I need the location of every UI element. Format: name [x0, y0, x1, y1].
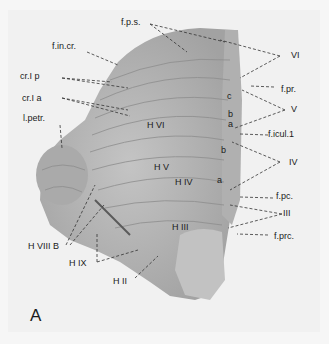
label-a-lower: a	[217, 176, 222, 185]
label-f-prc: f.prc.	[274, 232, 294, 241]
label-H-II: H II	[113, 277, 127, 286]
panel-letter: A	[30, 307, 41, 324]
label-f-pr: f.pr.	[281, 85, 296, 94]
label-c: c	[227, 92, 232, 101]
label-f-icul-1: f.icul.1	[268, 130, 294, 139]
label-roman-V: V	[291, 105, 297, 114]
label-a-upper: a	[228, 120, 233, 129]
label-H-IX: H IX	[69, 259, 87, 268]
label-H-VIII-B: H VIII B	[28, 242, 59, 251]
label-H-IV: H IV	[175, 178, 193, 187]
label-H-III: H III	[172, 223, 189, 232]
label-cr-I-p: cr.I p	[20, 72, 40, 81]
label-b-upper: b	[228, 110, 233, 119]
label-f-in-cr: f.in.cr.	[52, 42, 76, 51]
label-b-lower: b	[221, 146, 226, 155]
label-cr-I-a: cr.I a	[22, 94, 42, 103]
label-roman-III: III	[283, 209, 291, 218]
label-H-VI: H VI	[147, 121, 165, 130]
label-roman-VI: VI	[291, 51, 300, 60]
label-l-petr: l.petr.	[23, 114, 45, 123]
label-H-V: H V	[154, 163, 169, 172]
cerebellum-photo	[0, 0, 329, 344]
label-f-pc: f.pc.	[276, 192, 293, 201]
label-f-p-s: f.p.s.	[121, 18, 141, 27]
label-roman-IV: IV	[289, 158, 298, 167]
